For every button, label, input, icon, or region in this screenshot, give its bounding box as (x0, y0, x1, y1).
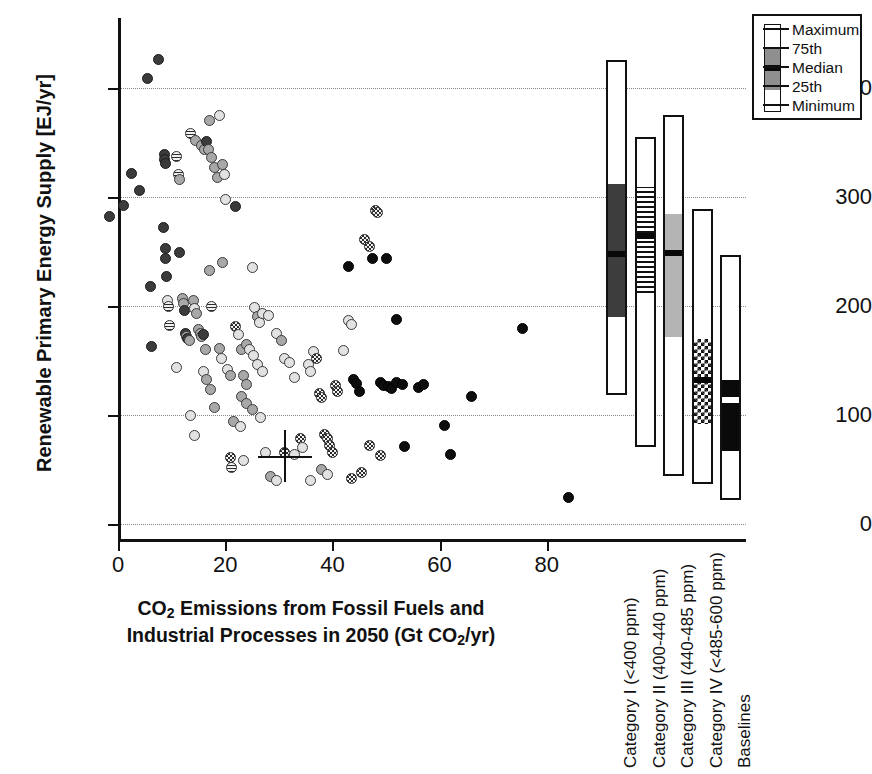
legend-tick-3 (763, 85, 789, 87)
boxplot-median-band (637, 233, 654, 239)
legend-box: Maximum75thMedian25thMinimum (752, 14, 862, 120)
boxplot-iqr-range (637, 187, 654, 293)
legend-tick-4 (763, 104, 789, 106)
boxplot-median-band (722, 397, 739, 403)
boxplot-category-label: Category II (400-440 ppm) (651, 569, 668, 768)
legend-label-75th: 75th (792, 41, 822, 57)
boxplot-5 (720, 255, 741, 500)
boxplot-category-label: Category III (440-485 ppm) (679, 564, 696, 768)
legend-tick-2 (763, 66, 789, 68)
boxplot-median-band (608, 251, 625, 257)
boxplot-4 (692, 209, 713, 484)
legend-label-maximum: Maximum (792, 22, 859, 38)
legend-label-median: Median (792, 60, 843, 76)
boxplot-median-band (665, 250, 682, 256)
renewable-energy-scatter-figure: 0100200300400 020406080 Renewable Primar… (0, 0, 872, 774)
boxplot-iqr-range (722, 380, 739, 451)
boxplot-median-band (694, 377, 711, 383)
legend-label-minimum: Minimum (792, 98, 855, 114)
boxplot-1 (606, 60, 627, 396)
boxplot-2 (635, 137, 656, 447)
legend-label-25th: 25th (792, 79, 822, 95)
boxplots-layer: Category I (<400 ppm)Category II (400-44… (0, 0, 872, 774)
boxplot-3 (663, 115, 684, 476)
legend-tick-0 (763, 28, 789, 30)
boxplot-category-label: Baselines (736, 694, 753, 768)
boxplot-category-label: Category IV (<485-600 ppm) (708, 552, 725, 768)
boxplot-iqr-range (665, 214, 682, 336)
boxplot-category-label: Category I (<400 ppm) (622, 597, 639, 768)
legend-tick-1 (763, 47, 789, 49)
legend-boxplot-key (764, 24, 781, 112)
